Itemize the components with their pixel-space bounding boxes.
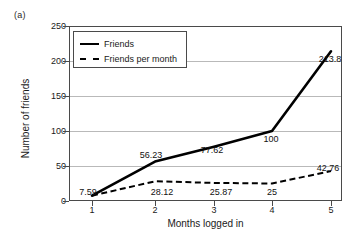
data-label-fpm-4: 25 [267, 187, 277, 197]
x-tick-label-4: 4 [269, 205, 274, 215]
series-friends-line [92, 51, 331, 195]
x-tick-label-1: 1 [89, 205, 94, 215]
data-label-friends-2: 56.23 [140, 150, 163, 160]
data-label-friends-1: 7.59 [79, 187, 97, 197]
data-label-friends-5: 213.8 [319, 54, 342, 64]
legend-swatch-dashed-icon [80, 58, 99, 60]
legend-swatch-solid-icon [80, 43, 99, 45]
data-label-fpm-5: 42.76 [317, 163, 340, 173]
x-tick-label-2: 2 [152, 205, 157, 215]
legend: Friends Friends per month [73, 31, 187, 68]
x-axis-title: Months logged in [69, 218, 342, 229]
data-label-friends-3: 77.62 [201, 145, 224, 155]
data-label-fpm-2: 28.12 [151, 187, 174, 197]
figure-panel-a: (a) Number of friends 0 50 100 150 200 2… [0, 0, 360, 240]
legend-label-friends-per-month: Friends per month [104, 54, 177, 64]
legend-item-friends: Friends [80, 36, 180, 51]
x-tick-label-3: 3 [211, 205, 216, 215]
legend-label-friends: Friends [104, 39, 134, 49]
legend-item-friends-per-month: Friends per month [80, 51, 180, 66]
x-tick-label-5: 5 [328, 205, 333, 215]
data-label-fpm-3: 25.87 [210, 187, 233, 197]
data-label-friends-4: 100 [263, 134, 278, 144]
